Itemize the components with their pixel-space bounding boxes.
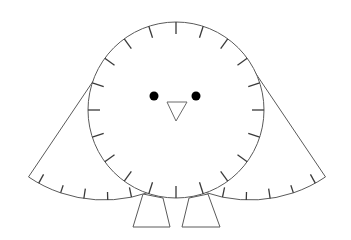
left-eye (150, 92, 159, 101)
left-leg (133, 194, 170, 227)
right-leg (182, 194, 220, 227)
right-eye (192, 92, 201, 101)
legs (133, 194, 220, 227)
bird-drawing (0, 0, 351, 240)
